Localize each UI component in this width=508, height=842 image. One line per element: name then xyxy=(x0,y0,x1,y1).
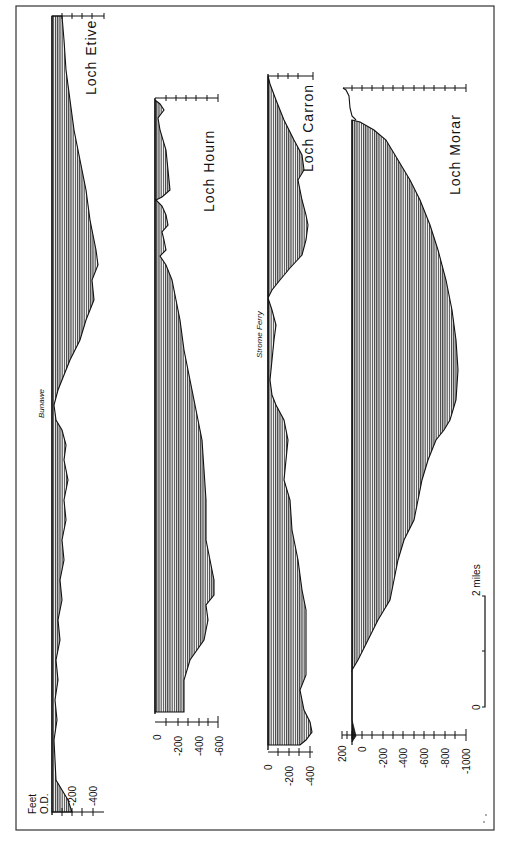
loch-morar-tick-minus-1000: -1000 xyxy=(461,748,472,774)
units-label-od: O.D. xyxy=(39,793,50,814)
scale-bar: 0 2 miles xyxy=(471,564,485,710)
speck-mark xyxy=(483,821,485,823)
loch-carron-tick-0: 0 xyxy=(263,764,274,770)
loch-hourn-tick-200: -200 xyxy=(173,736,184,756)
loch-morar-tick-200: 200 xyxy=(337,745,348,762)
loch-carron-profile-area xyxy=(268,76,312,745)
loch-hourn-tick-400: -400 xyxy=(194,736,205,756)
scale-bar-end-label: 2 miles xyxy=(471,564,482,596)
loch-morar-profile-area xyxy=(352,120,458,670)
figure-canvas: Feet O.D. -200 -400 Loch Etive Bunawe 0 … xyxy=(0,0,508,842)
loch-hourn-label: Loch Hourn xyxy=(201,130,217,212)
loch-hourn-tick-600: -600 xyxy=(214,736,225,756)
loch-carron-tick-200: -200 xyxy=(284,766,295,786)
loch-morar-tick-minus-600: -600 xyxy=(419,748,430,768)
loch-etive-tick-400: -400 xyxy=(88,786,99,806)
loch-morar-label: Loch Morar xyxy=(447,114,463,195)
profile-loch-hourn: 0 -200 -400 -600 Loch Hourn xyxy=(152,94,225,756)
loch-morar-tick-minus-400: -400 xyxy=(398,748,409,768)
loch-carron-label: Loch Carron xyxy=(300,84,316,172)
loch-morar-head-shore xyxy=(343,88,356,120)
units-label-feet: Feet xyxy=(27,794,38,814)
loch-morar-tick-minus-200: -200 xyxy=(378,748,389,768)
loch-morar-tick-minus-800: -800 xyxy=(440,748,451,768)
profile-loch-etive: Feet O.D. -200 -400 Loch Etive Bunawe xyxy=(27,13,104,816)
speck-mark xyxy=(485,814,487,816)
loch-etive-label: Loch Etive xyxy=(83,20,99,95)
bunawe-annotation: Bunawe xyxy=(37,389,46,418)
loch-etive-profile-area xyxy=(52,16,98,812)
loch-carron-tick-400: -400 xyxy=(305,766,316,786)
loch-morar-tick-0: 0 xyxy=(357,746,368,752)
profile-loch-morar: 200 0 -200 -400 -600 -800 -1000 Loch Mor… xyxy=(337,84,472,774)
loch-etive-tick-200: -200 xyxy=(67,786,78,806)
strome-ferry-annotation: Strome Ferry xyxy=(255,310,264,358)
loch-hourn-tick-0: 0 xyxy=(152,734,163,740)
profile-loch-carron: 0 -200 -400 Loch Carron Strome Ferry xyxy=(255,72,316,786)
scale-bar-start-label: 0 xyxy=(471,704,482,710)
